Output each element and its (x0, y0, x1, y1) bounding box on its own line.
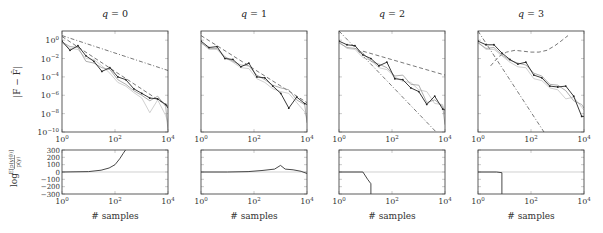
data-marker (304, 103, 306, 105)
data-marker (85, 55, 87, 57)
y-axis-labels: |F − F̂|logE[p(y|θ)]p(y) (8, 66, 23, 187)
log-ratio-line (339, 172, 371, 194)
data-marker (533, 74, 535, 76)
y-tick-label: 10−8 (41, 108, 60, 119)
data-marker (370, 58, 372, 60)
estimate-line (201, 43, 307, 123)
lower-x-tick-label: 102 (247, 196, 261, 207)
x-axis-label: # samples (91, 211, 139, 221)
data-marker (272, 85, 274, 87)
panels: q = 010010210410−1010−810−610−410−210010… (37, 8, 591, 221)
data-marker (248, 62, 250, 64)
data-marker (442, 108, 444, 110)
data-marker (264, 77, 266, 79)
reference-line (339, 31, 445, 141)
data-marker (517, 63, 519, 65)
data-marker (208, 47, 210, 49)
main-plot-lines (477, 31, 584, 137)
x-tick-label: 100 (55, 134, 69, 145)
svg-text:E[p(y|θ)]: E[p(y|θ)] (8, 150, 15, 174)
data-marker (402, 79, 404, 81)
estimate-line (62, 41, 168, 108)
panel-title: q = 2 (379, 8, 405, 19)
lower-y-tick-label: −300 (41, 191, 60, 199)
data-marker (69, 49, 71, 51)
data-marker (232, 59, 234, 61)
lower-plot-lines (478, 172, 584, 194)
lower-y-axis-label: logE[p(y|θ)]p(y) (8, 150, 22, 187)
data-marker (410, 87, 412, 89)
lower-x-tick-label: 100 (471, 196, 485, 207)
y-tick-label: 10−4 (41, 71, 60, 82)
data-marker (125, 79, 127, 81)
data-marker (240, 66, 242, 68)
data-marker (157, 98, 159, 100)
data-marker (216, 46, 218, 48)
lower-x-tick-label: 102 (385, 196, 399, 207)
data-marker (386, 61, 388, 63)
data-marker (418, 91, 420, 93)
data-marker (224, 58, 226, 60)
x-axis-label: # samples (368, 211, 416, 221)
panel-q0: q = 010010210410−1010−810−610−410−210010… (37, 8, 175, 221)
data-marker (101, 71, 103, 73)
y-tick-label: 10−2 (41, 53, 59, 64)
panel-q2: q = 2100102104100102104# samples (332, 8, 452, 221)
data-marker (141, 93, 143, 95)
x-axis-label: # samples (230, 211, 278, 221)
x-tick-label: 100 (471, 134, 485, 145)
x-tick-label: 104 (438, 134, 452, 145)
data-marker (509, 59, 511, 61)
log-ratio-line (478, 172, 502, 194)
x-tick-label: 102 (524, 134, 538, 145)
data-marker (426, 104, 428, 106)
estimate-line (62, 43, 168, 123)
data-marker (394, 78, 396, 80)
data-marker (165, 104, 167, 106)
x-tick-label: 104 (161, 134, 175, 145)
estimate-line (339, 42, 445, 115)
x-tick-label: 100 (194, 134, 208, 145)
data-marker (378, 65, 380, 67)
x-tick-label: 100 (332, 134, 346, 145)
y-tick-label: 10−6 (41, 90, 60, 101)
x-tick-label: 104 (300, 134, 314, 145)
svg-text:p(y): p(y) (15, 157, 22, 168)
estimate-line (201, 42, 307, 118)
data-marker (256, 76, 258, 78)
lower-x-tick-label: 100 (194, 196, 208, 207)
lower-plot-lines (62, 150, 168, 172)
data-marker (434, 95, 436, 97)
lower-x-tick-label: 100 (332, 196, 346, 207)
estimate-line (62, 42, 168, 130)
x-axis-label: # samples (507, 211, 555, 221)
data-marker (93, 60, 95, 62)
lower-x-tick-label: 104 (577, 196, 591, 207)
lower-x-tick-label: 104 (161, 196, 175, 207)
panel-q3: q = 3100102104100102104# samples (471, 8, 591, 221)
reference-line (491, 36, 568, 66)
data-marker (493, 44, 495, 46)
data-marker (133, 88, 135, 90)
data-marker (541, 77, 543, 79)
x-tick-label: 102 (247, 134, 261, 145)
data-marker (77, 45, 79, 47)
panel-title: q = 0 (102, 8, 128, 19)
log-ratio-line (62, 150, 126, 172)
data-marker (501, 52, 503, 54)
lower-x-tick-label: 104 (300, 196, 314, 207)
data-marker (525, 61, 527, 63)
data-marker (362, 54, 364, 56)
reference-line (478, 31, 547, 137)
panel-title: q = 1 (241, 8, 267, 19)
reference-line (62, 36, 168, 71)
data-marker (117, 76, 119, 78)
main-plot-lines (61, 36, 168, 131)
y-tick-label: 100 (45, 35, 59, 46)
x-tick-label: 102 (385, 134, 399, 145)
lower-x-tick-label: 102 (108, 196, 122, 207)
data-marker (280, 93, 282, 95)
data-marker (296, 96, 298, 98)
data-marker (149, 97, 151, 99)
data-marker (557, 86, 559, 88)
